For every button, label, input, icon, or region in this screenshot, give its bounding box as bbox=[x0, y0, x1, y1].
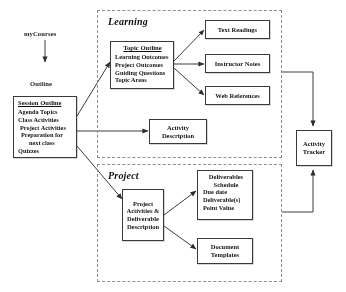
instructor-notes-label: Instructor Notes bbox=[215, 60, 261, 68]
wire-project-to-activity-tracker bbox=[282, 170, 313, 212]
activity-description-box[interactable]: Activity Description bbox=[149, 119, 207, 144]
topic-outline-item: Topic Areas bbox=[115, 76, 170, 84]
document-templates-line-1: Document bbox=[211, 243, 240, 251]
flowchart-canvas: myCourses Outline Learning Project Sessi… bbox=[0, 0, 346, 292]
web-references-box[interactable]: Web References bbox=[205, 86, 270, 105]
session-outline-item: Agenda Topics bbox=[18, 108, 73, 116]
deliverables-schedule-title-line-1: Deliverables bbox=[203, 173, 249, 181]
deliverables-schedule-title-line-2: Schedule bbox=[203, 181, 249, 189]
deliverables-schedule-item: Deliverable(s) bbox=[203, 196, 249, 204]
group-project-title: Project bbox=[108, 170, 139, 181]
text-readings-box[interactable]: Text Readings bbox=[205, 20, 270, 39]
project-activities-line-3: Deliverable bbox=[127, 215, 159, 223]
topic-outline-title: Topic Outline bbox=[115, 44, 170, 52]
document-templates-line-2: Templates bbox=[211, 251, 239, 259]
web-references-label: Web References bbox=[215, 92, 259, 100]
activity-tracker-box[interactable]: Activity Tracker bbox=[296, 130, 332, 166]
text-readings-label: Text Readings bbox=[218, 26, 257, 34]
deliverables-schedule-item: Point Value bbox=[203, 204, 249, 212]
topic-outline-item: Project Outcomes bbox=[115, 61, 170, 69]
wire-learning-to-activity-tracker bbox=[282, 72, 313, 126]
group-learning-title: Learning bbox=[108, 16, 148, 27]
mycourses-label: myCourses bbox=[24, 30, 56, 37]
session-outline-title: Session Outline bbox=[18, 99, 73, 107]
activity-tracker-line-1: Activity bbox=[303, 140, 325, 148]
deliverables-schedule-item: Due date bbox=[203, 188, 249, 196]
project-activities-line-1: Project bbox=[133, 200, 153, 208]
topic-outline-box[interactable]: Topic Outline Learning Outcomes Project … bbox=[110, 41, 174, 89]
session-outline-item: Class Activities bbox=[18, 116, 73, 124]
outline-label: Outline bbox=[30, 80, 52, 87]
document-templates-box[interactable]: Document Templates bbox=[197, 238, 253, 264]
project-activities-line-4: Description bbox=[127, 223, 159, 231]
activity-description-line-1: Activity bbox=[167, 124, 189, 132]
session-outline-item: next class bbox=[18, 139, 73, 147]
session-outline-item: Project Activities bbox=[18, 124, 73, 132]
session-outline-item: Preparation for bbox=[18, 131, 73, 139]
session-outline-item: Quizzes bbox=[18, 147, 73, 155]
session-outline-box[interactable]: Session Outline Agenda Topics Class Acti… bbox=[13, 96, 77, 158]
topic-outline-item: Guiding Questions bbox=[115, 69, 170, 77]
activity-tracker-line-2: Tracker bbox=[303, 148, 325, 156]
deliverables-schedule-box[interactable]: Deliverables Schedule Due date Deliverab… bbox=[197, 170, 253, 220]
instructor-notes-box[interactable]: Instructor Notes bbox=[205, 54, 270, 73]
topic-outline-item: Learning Outcomes bbox=[115, 53, 170, 61]
activity-description-line-2: Description bbox=[162, 132, 194, 140]
project-activities-line-2: Activities & bbox=[126, 207, 159, 215]
project-activities-box[interactable]: Project Activities & Deliverable Descrip… bbox=[122, 189, 164, 241]
